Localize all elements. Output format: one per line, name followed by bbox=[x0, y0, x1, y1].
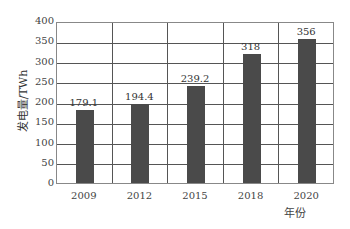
gridline-vertical bbox=[223, 23, 224, 183]
gridline-vertical bbox=[112, 23, 113, 183]
value-label: 194.4 bbox=[119, 91, 159, 102]
value-label: 239.2 bbox=[175, 73, 215, 84]
y-tick-label: 150 bbox=[24, 116, 54, 127]
bar-2018 bbox=[243, 54, 261, 183]
bar-2012 bbox=[131, 104, 149, 183]
x-tick-label: 2009 bbox=[56, 190, 112, 201]
y-tick-label: 200 bbox=[24, 96, 54, 107]
x-tick-label: 2020 bbox=[278, 190, 334, 201]
y-tick-label: 350 bbox=[24, 35, 54, 46]
y-tick-label: 100 bbox=[24, 137, 54, 148]
gridline-vertical bbox=[278, 23, 279, 183]
value-label: 179.1 bbox=[64, 97, 104, 108]
gridline-horizontal bbox=[57, 63, 333, 64]
bar-chart: 发电量/TWh 050100150200250300350400 2009201… bbox=[0, 0, 350, 229]
y-tick-label: 0 bbox=[24, 177, 54, 188]
y-tick-label: 250 bbox=[24, 76, 54, 87]
gridline-vertical bbox=[167, 23, 168, 183]
x-tick-label: 2012 bbox=[111, 190, 167, 201]
x-axis-label: 年份 bbox=[284, 204, 306, 220]
bar-2015 bbox=[187, 86, 205, 183]
x-tick-label: 2018 bbox=[223, 190, 279, 201]
y-tick-label: 50 bbox=[24, 157, 54, 168]
x-tick-label: 2015 bbox=[167, 190, 223, 201]
value-label: 356 bbox=[286, 26, 326, 37]
value-label: 318 bbox=[231, 41, 271, 52]
y-tick-label: 300 bbox=[24, 56, 54, 67]
gridline-horizontal bbox=[57, 43, 333, 44]
y-tick-label: 400 bbox=[24, 15, 54, 26]
bar-2020 bbox=[298, 39, 316, 183]
bar-2009 bbox=[76, 110, 94, 183]
